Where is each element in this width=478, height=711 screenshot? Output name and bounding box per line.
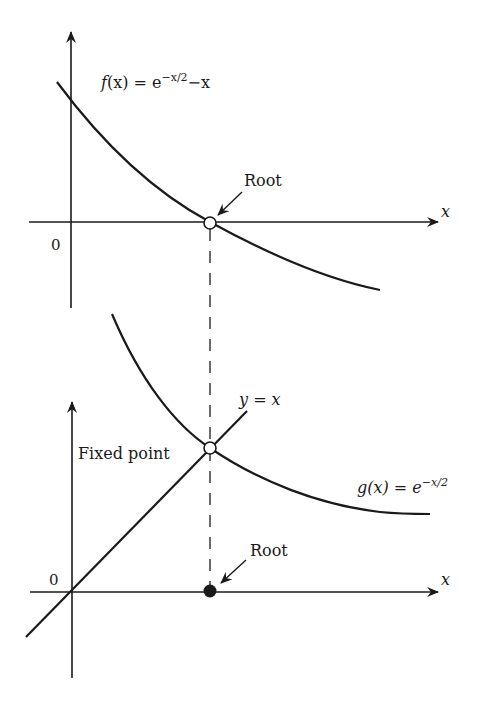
fixed-point-diagram: 0 x f(x) = e−x/2−x Root 0 x y = x Fixed … bbox=[0, 0, 478, 711]
f-function-label: f(x) = e−x/2−x bbox=[100, 71, 210, 92]
bottom-origin-label: 0 bbox=[49, 571, 59, 589]
bottom-root-label: Root bbox=[250, 541, 288, 560]
top-x-label: x bbox=[441, 202, 450, 221]
g-label-body: g(x) = e bbox=[357, 478, 422, 497]
identity-line-label: y = x bbox=[238, 390, 281, 409]
f-label-body: (x) = e bbox=[107, 73, 162, 92]
top-panel: 0 x f(x) = e−x/2−x Root bbox=[29, 32, 450, 308]
f-curve bbox=[57, 82, 380, 290]
fixed-point-label: Fixed point bbox=[78, 444, 170, 463]
bottom-x-label: x bbox=[441, 570, 450, 589]
top-root-arrow bbox=[218, 192, 242, 215]
root-filled-marker bbox=[204, 585, 217, 598]
bottom-root-arrow bbox=[221, 560, 246, 583]
g-label-exponent: −x/2 bbox=[422, 476, 448, 489]
bottom-panel: 0 x y = x Fixed point g(x) = e−x/2 Root bbox=[26, 314, 450, 678]
root-open-marker bbox=[204, 217, 216, 229]
f-label-exponent: −x/2 bbox=[161, 71, 187, 84]
f-label-tail: −x bbox=[188, 73, 210, 92]
g-function-label: g(x) = e−x/2 bbox=[357, 476, 448, 497]
fixed-point-open-marker bbox=[204, 442, 216, 454]
top-origin-label: 0 bbox=[51, 236, 61, 254]
top-root-label: Root bbox=[244, 171, 282, 190]
